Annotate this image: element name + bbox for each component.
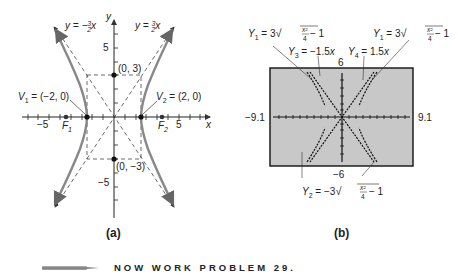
asymptote-right-label: y = 32x	[134, 20, 161, 33]
x-tick-neg5: −5	[37, 119, 49, 130]
x-tick-5: 5	[176, 119, 182, 130]
x-axis-label: x	[205, 119, 212, 130]
y-tick-neg5: −5	[98, 177, 110, 188]
svg-text:x²: x²	[301, 26, 308, 33]
label-y1-left: Y1 = 3√	[248, 27, 283, 41]
window-ymin: −6	[333, 169, 345, 180]
svg-text:− 1: − 1	[435, 28, 450, 39]
window-xmax: 9.1	[418, 112, 432, 123]
figure-b-calculator: Y1 = 3√ x² 4 − 1 Y1 = 3√ x² 4 − 1 Y3 = −…	[230, 0, 458, 240]
y-tick-5: 5	[103, 42, 109, 53]
figure-b-caption: (b)	[334, 226, 349, 240]
label-y1-right: Y1 = 3√	[373, 27, 408, 41]
svg-text:− 1: − 1	[310, 28, 325, 39]
vertex-right-label: V2 = (2, 0)	[156, 91, 201, 104]
svg-text:− 1: − 1	[369, 186, 384, 197]
svg-text:4: 4	[361, 193, 365, 200]
svg-text:x²: x²	[359, 184, 366, 191]
svg-text:x²: x²	[426, 26, 433, 33]
svg-text:4: 4	[303, 35, 307, 42]
point-top-label: (0, 3)	[118, 63, 141, 74]
window-ymax: 6	[338, 57, 344, 68]
figure-a-caption: (a)	[106, 226, 121, 240]
focus-left-label: F1	[62, 120, 72, 133]
vertex-left-label: V1 = (−2, 0)	[18, 91, 69, 104]
now-work-problem-text: NOW WORK PROBLEM 29.	[114, 262, 296, 273]
asymptote-left-label: y = −32x	[64, 20, 97, 33]
svg-text:4: 4	[428, 35, 432, 42]
y-axis-label: y	[105, 11, 112, 22]
focus-right-label: F2	[158, 120, 168, 133]
label-y2: Y2 = −3√	[302, 185, 342, 199]
window-xmin: −9.1	[245, 112, 265, 123]
label-y3: Y3 = −1.5x	[288, 46, 336, 59]
figure-a-graph: y x −5 5 5 −5 y = −32x y = 32x (0, 3) (0…	[0, 0, 230, 240]
label-y4: Y4 = 1.5x	[348, 46, 390, 59]
point-bottom-label: (0, −3)	[116, 161, 145, 172]
pencil-icon	[42, 265, 100, 271]
